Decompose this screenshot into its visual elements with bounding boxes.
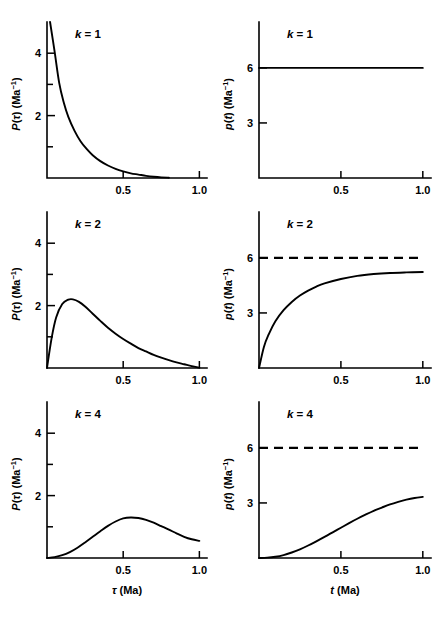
y-tick-label: 3 (247, 307, 253, 319)
y-axis-title: p(t) (Ma−1) (221, 268, 234, 321)
data-curve (50, 22, 169, 178)
x-tick-label: 1.0 (415, 374, 430, 386)
x-tick-label: 0.5 (333, 184, 348, 196)
x-tick-label: 0.5 (333, 564, 348, 576)
series-k-label: k = 1 (287, 28, 314, 40)
axis-lines (47, 402, 207, 558)
panel-k1-right: 0.51.036k = 1p(t) (Ma−1) (221, 22, 431, 196)
data-curve (259, 497, 423, 558)
y-axis-title: P(τ) (Ma−1) (9, 457, 22, 511)
x-tick-label: 1.0 (192, 184, 207, 196)
y-tick-label: 2 (35, 300, 41, 312)
y-tick-label: 2 (35, 110, 41, 122)
axis-lines (259, 212, 431, 368)
x-tick-label: 0.5 (333, 374, 348, 386)
data-curve (259, 272, 423, 368)
data-curve (47, 299, 199, 368)
panel-k2-left: 0.51.024k = 2P(τ) (Ma−1) (9, 212, 207, 386)
y-tick-label: 4 (35, 427, 42, 439)
y-tick-label: 4 (35, 47, 42, 59)
x-axis-title-right: t (Ma) (330, 584, 360, 596)
y-axis-title: P(τ) (Ma−1) (9, 267, 22, 321)
figure-canvas: 0.51.024k = 1P(τ) (Ma−1)0.51.036k = 1p(t… (0, 0, 443, 628)
y-tick-label: 2 (35, 490, 41, 502)
axis-lines (259, 402, 431, 558)
x-axis-title-left: τ (Ma) (112, 584, 143, 596)
panel-k1-left: 0.51.024k = 1P(τ) (Ma−1) (9, 22, 207, 196)
y-axis-title: p(t) (Ma−1) (221, 458, 234, 511)
panel-k2-right: 0.51.036k = 2p(t) (Ma−1) (221, 212, 431, 386)
panel-k4-left: 0.51.024k = 4P(τ) (Ma−1) (9, 402, 207, 576)
series-k-label: k = 2 (75, 218, 101, 230)
axis-lines (47, 212, 207, 368)
y-axis-title: p(t) (Ma−1) (221, 78, 234, 131)
axis-lines (47, 22, 207, 178)
axis-lines (259, 22, 431, 178)
x-tick-label: 1.0 (192, 374, 207, 386)
figure-svg: 0.51.024k = 1P(τ) (Ma−1)0.51.036k = 1p(t… (0, 0, 443, 628)
x-tick-label: 0.5 (116, 374, 131, 386)
series-k-label: k = 1 (75, 28, 102, 40)
x-tick-label: 1.0 (415, 184, 430, 196)
series-k-label: k = 4 (287, 408, 314, 420)
x-tick-label: 1.0 (415, 564, 430, 576)
x-tick-label: 0.5 (116, 564, 131, 576)
y-axis-title: P(τ) (Ma−1) (9, 77, 22, 131)
y-tick-label: 4 (35, 237, 42, 249)
y-tick-label: 3 (247, 117, 253, 129)
y-tick-label: 3 (247, 497, 253, 509)
x-tick-label: 0.5 (116, 184, 131, 196)
series-k-label: k = 2 (287, 218, 313, 230)
y-tick-label: 6 (247, 442, 253, 454)
series-k-label: k = 4 (75, 408, 102, 420)
y-tick-label: 6 (247, 62, 253, 74)
x-tick-label: 1.0 (192, 564, 207, 576)
panel-k4-right: 0.51.036k = 4p(t) (Ma−1) (221, 402, 431, 576)
y-tick-label: 6 (247, 252, 253, 264)
